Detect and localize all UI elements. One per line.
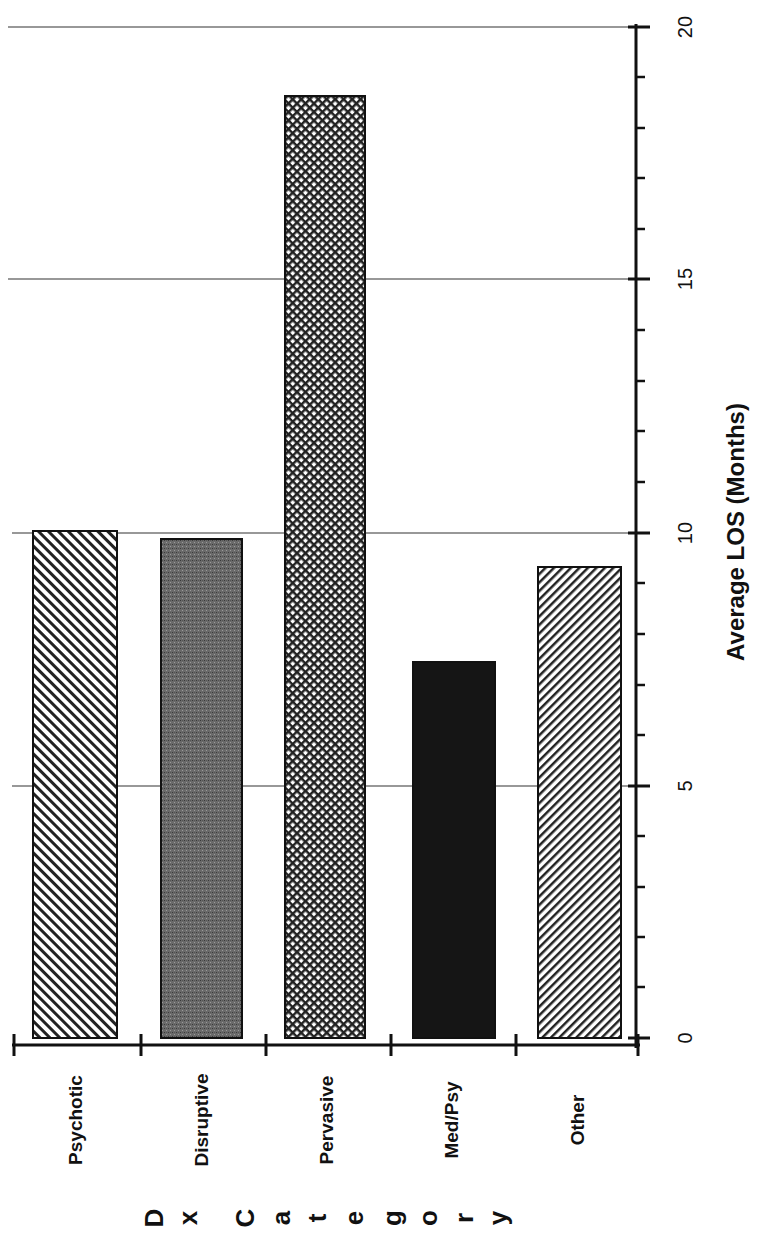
dx-letter: C <box>230 1208 260 1227</box>
dx-letter: y <box>483 1210 513 1225</box>
dx-letter: r <box>449 1213 479 1223</box>
value-axis <box>628 24 650 1048</box>
tick-label-15: 15 <box>674 268 696 290</box>
bar-med-psy <box>413 662 495 1038</box>
dx-letter: t <box>302 1213 332 1222</box>
category-label-pervasive: Pervasive <box>316 1076 337 1165</box>
category-label-psychotic: Psychotic <box>65 1075 86 1165</box>
category-label-med-psy: Med/Psy <box>441 1081 462 1159</box>
tick-label-10: 10 <box>674 522 696 544</box>
value-axis-title: Average LOS (Months) <box>722 403 749 661</box>
category-labels: Psychotic Disruptive Pervasive Med/Psy O… <box>65 1074 588 1167</box>
category-label-disruptive: Disruptive <box>191 1074 212 1167</box>
category-axis-title: D x C a t e g o r y <box>139 1208 513 1227</box>
dx-letter: a <box>266 1210 296 1225</box>
tick-label-5: 5 <box>674 780 696 791</box>
dx-letter: g <box>377 1210 407 1226</box>
bars <box>33 96 621 1038</box>
tick-label-0: 0 <box>674 1032 696 1043</box>
bar-chart: 0 5 10 15 20 Average LOS (Months) Psycho… <box>0 0 759 1247</box>
bar-disruptive <box>161 539 242 1038</box>
bar-pervasive <box>285 96 365 1038</box>
value-tick-labels: 0 5 10 15 20 <box>674 16 696 1044</box>
bar-psychotic <box>33 531 117 1038</box>
tick-label-20: 20 <box>674 16 696 38</box>
dx-letter: o <box>413 1210 443 1226</box>
dx-letter: D <box>139 1209 169 1228</box>
dx-letter: x <box>173 1210 203 1225</box>
category-label-other: Other <box>567 1094 588 1145</box>
dx-letter: e <box>339 1211 369 1225</box>
bar-other <box>538 567 621 1038</box>
